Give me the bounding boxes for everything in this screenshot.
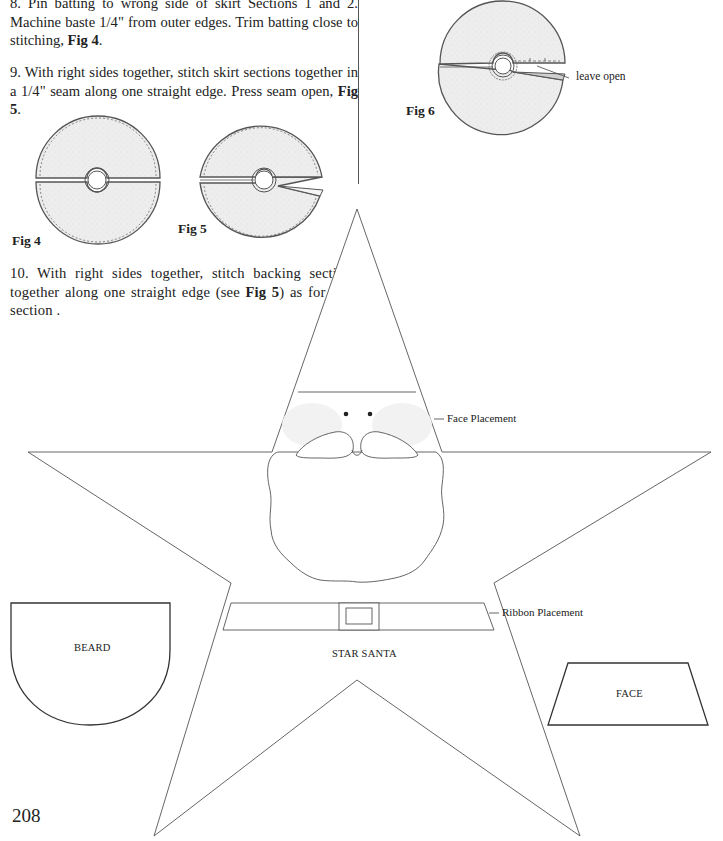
pattern-artwork	[0, 0, 723, 841]
fig5-illustration	[200, 126, 323, 237]
fig4-label: Fig 4	[12, 233, 41, 249]
beard-template-label: BEARD	[74, 642, 111, 653]
pattern-title: STAR SANTA	[332, 648, 397, 659]
star-santa-pattern	[28, 209, 711, 836]
face-template-label: FACE	[616, 688, 643, 699]
beard-template	[11, 603, 170, 725]
beard-outline	[268, 452, 444, 582]
ribbon-placement-label: Ribbon Placement	[502, 606, 583, 618]
face-placement-label: Face Placement	[447, 412, 516, 424]
leave-open-callout: leave open	[576, 70, 626, 82]
page-number: 208	[12, 805, 41, 827]
fig6-label: Fig 6	[406, 103, 435, 119]
fig5-label: Fig 5	[178, 221, 207, 237]
fig4-illustration	[36, 116, 160, 244]
fig6-illustration	[438, 1, 569, 135]
